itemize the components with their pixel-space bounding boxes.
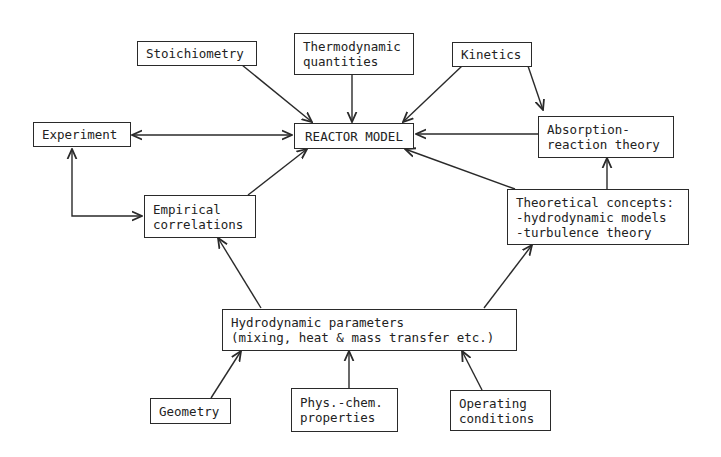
node-label: -hydrodynamic models — [516, 210, 680, 225]
arrow-theoretical-to-reactor — [405, 149, 515, 189]
node-label: Geometry — [159, 404, 222, 419]
node-thermodynamic-quantities: Thermodynamic quantities — [294, 33, 414, 75]
node-empirical-correlations: Empirical correlations — [144, 195, 256, 238]
node-label: Absorption- — [547, 122, 665, 137]
node-label: (mixing, heat & mass transfer etc.) — [231, 330, 508, 345]
node-label: properties — [300, 410, 389, 425]
node-kinetics: Kinetics — [452, 42, 532, 67]
node-operating-conditions: Operating conditions — [450, 390, 551, 431]
node-geometry: Geometry — [150, 398, 231, 424]
node-label: Phys.-chem. — [300, 395, 389, 410]
arrow-operating-to-hydrodynamic — [462, 351, 482, 390]
node-stoichiometry: Stoichiometry — [137, 41, 257, 66]
node-label: Kinetics — [461, 47, 523, 62]
node-label: reaction theory — [547, 137, 665, 152]
arrow-hydrodynamic-to-theoretical — [484, 245, 532, 308]
node-label: Operating — [459, 396, 542, 411]
node-label: quantities — [303, 54, 405, 69]
node-label: Stoichiometry — [146, 46, 248, 61]
node-label: conditions — [459, 411, 542, 426]
arrow-empirical-to-reactor — [248, 149, 307, 195]
node-absorption-reaction-theory: Absorption- reaction theory — [538, 116, 674, 158]
node-label: Hydrodynamic parameters — [231, 315, 508, 330]
node-label: Experiment — [42, 127, 122, 142]
arrow-kinetics-to-absorption — [528, 66, 543, 110]
reactor-model-diagram: Stoichiometry Thermodynamic quantities K… — [0, 0, 721, 457]
node-hydrodynamic-parameters: Hydrodynamic parameters (mixing, heat & … — [222, 309, 517, 351]
node-physchem-properties: Phys.-chem. properties — [291, 388, 398, 432]
node-label: Theoretical concepts: — [516, 195, 680, 210]
node-label: Empirical — [153, 202, 247, 217]
arrow-geometry-to-hydrodynamic — [211, 351, 241, 398]
node-label: Thermodynamic — [303, 39, 405, 54]
node-label: correlations — [153, 217, 247, 232]
node-experiment: Experiment — [33, 122, 131, 147]
arrow-hydrodynamic-to-empirical — [218, 238, 261, 308]
arrow-experiment-empirical — [72, 149, 142, 216]
node-reactor-model: REACTOR MODEL — [294, 123, 414, 149]
node-label: REACTOR MODEL — [305, 129, 403, 144]
node-theoretical-concepts: Theoretical concepts: -hydrodynamic mode… — [507, 189, 689, 245]
node-label: -turbulence theory — [516, 225, 680, 240]
